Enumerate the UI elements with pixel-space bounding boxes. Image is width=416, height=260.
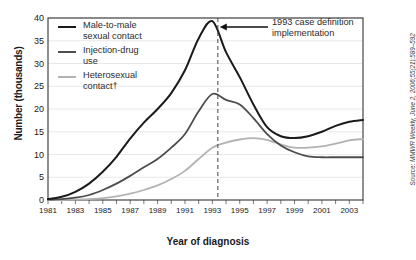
legend-label-line1: Male-to-male: [83, 20, 142, 31]
annotation-1993-case-definition: 1993 case definition implementation: [272, 17, 392, 39]
legend-label-line1: Injection-drug: [83, 45, 139, 56]
legend-label-male-to-male: Male-to-male sexual contact: [83, 20, 142, 41]
legend-label-injection-drug-use: Injection-drug use: [83, 45, 139, 66]
annotation-line1: 1993 case definition: [272, 17, 392, 28]
legend-swatch-heterosexual-contact: [58, 76, 76, 78]
legend-swatch-male-to-male: [58, 26, 76, 28]
legend-swatch-injection-drug-use: [58, 51, 76, 53]
legend-label-line2: use: [83, 56, 139, 67]
legend-label-line1: Heterosexual: [83, 70, 137, 81]
series-line-heterosexual-contact: [48, 138, 363, 200]
legend-label-heterosexual-contact: Heterosexual contact†: [83, 70, 137, 91]
legend-label-line2: sexual contact: [83, 31, 142, 42]
annotation-line2: implementation: [272, 28, 392, 39]
legend-item-male-to-male: Male-to-male sexual contact: [58, 20, 188, 41]
chart-legend: Male-to-male sexual contact Injection-dr…: [58, 20, 188, 96]
legend-label-line2: contact†: [83, 81, 137, 92]
annotation-arrow-head: [220, 24, 227, 31]
legend-item-injection-drug-use: Injection-drug use: [58, 45, 188, 66]
legend-item-heterosexual-contact: Heterosexual contact†: [58, 70, 188, 91]
